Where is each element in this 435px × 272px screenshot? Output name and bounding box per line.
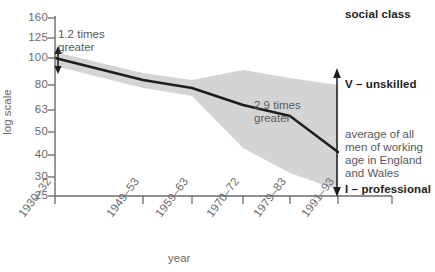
annotation-left-ratio: 1.2 times greater [58,28,105,53]
y-axis-label: log scale [1,82,13,142]
annotation-left-line2: greater [58,41,105,54]
y-tick-63: 63 [14,104,48,116]
legend-item-class-i: I – professional [345,183,431,195]
y-tick-40: 40 [14,149,48,161]
x-axis-label: year [168,252,190,264]
y-tick-50: 50 [14,126,48,138]
annotation-right-ratio: 2.9 times greater [254,99,301,124]
y-tick-125: 125 [14,32,48,44]
legend-panel: social class V – unskilled average of al… [345,0,435,272]
chart-figure: 160 125 100 80 63 50 40 30 25 log scale … [0,0,435,272]
annotation-right-line2: greater [254,112,301,125]
legend-item-class-v: V – unskilled [345,78,417,90]
y-axis-ticks [48,18,55,196]
y-axis-tick-labels: 160 125 100 80 63 50 40 30 25 [14,0,48,272]
y-tick-80: 80 [14,79,48,91]
y-tick-100: 100 [14,52,48,64]
y-tick-160: 160 [14,12,48,24]
legend-title: social class [345,8,411,20]
annotation-right-line1: 2.9 times [254,99,301,112]
annotation-left-line1: 1.2 times [58,28,105,41]
legend-item-average: average of all men of working age in Eng… [345,128,435,180]
